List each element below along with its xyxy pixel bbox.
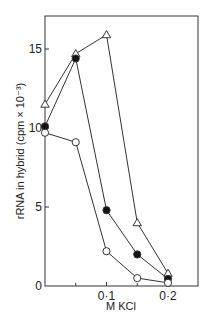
filled-circle-marker [103, 207, 110, 214]
y-tick-label: 0 [35, 279, 42, 293]
triangle-marker [102, 31, 110, 38]
x-tick-label: 0·2 [159, 289, 177, 303]
axis-ticks: 0510150·10·2 [29, 42, 177, 303]
series-open-triangle [41, 31, 172, 277]
series-line [45, 35, 168, 274]
data-series [41, 31, 172, 287]
triangle-marker [41, 100, 49, 107]
plot-border [45, 16, 198, 286]
open-circle-marker [164, 279, 171, 286]
open-circle-marker [72, 139, 79, 146]
open-circle-marker [134, 275, 141, 282]
filled-circle-marker [134, 251, 141, 258]
y-axis-label: rRNA in hybrid (cpm × 10⁻³) [14, 83, 26, 220]
plot-frame [45, 16, 198, 286]
y-tick-label: 5 [35, 200, 42, 214]
y-tick-label: 10 [29, 121, 43, 135]
filled-circle-marker [72, 55, 79, 62]
open-circle-marker [41, 129, 48, 136]
series-line [45, 58, 168, 278]
open-circle-marker [103, 248, 110, 255]
x-axis-label: M KCl [106, 300, 136, 312]
y-tick-label: 15 [29, 42, 43, 56]
chart: 0510150·10·2 M KCl rRNA in hybrid (cpm ×… [0, 0, 214, 322]
triangle-marker [133, 219, 141, 226]
